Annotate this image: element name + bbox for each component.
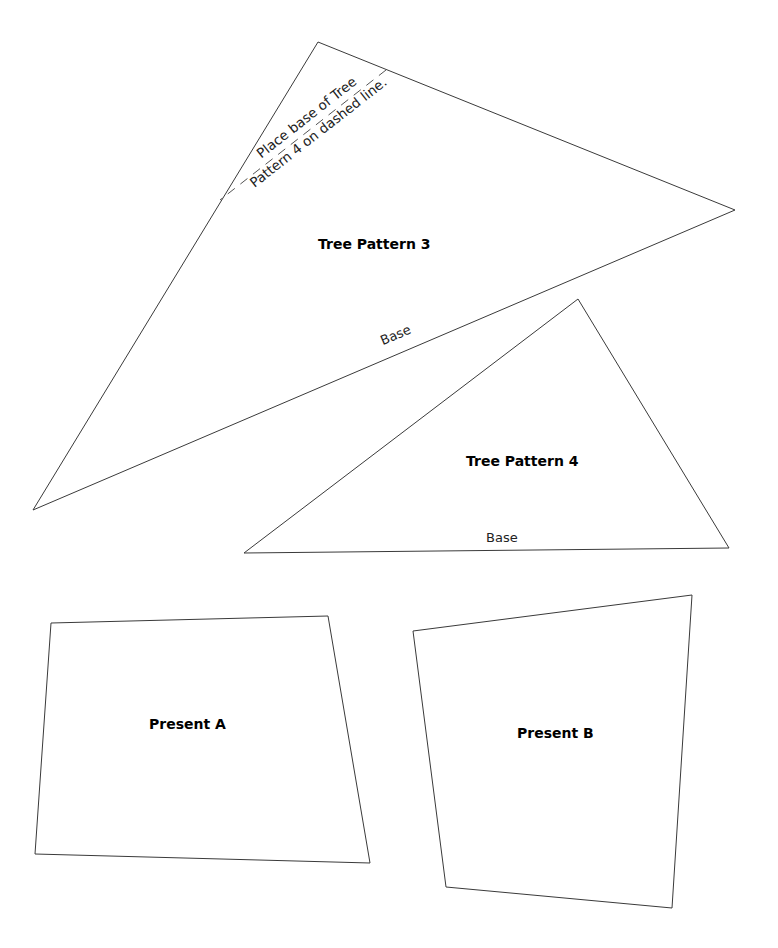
present-b-title: Present B (517, 725, 594, 741)
present-b-shape (413, 595, 692, 908)
present-a-title: Present A (149, 716, 226, 732)
pattern-canvas (0, 0, 778, 948)
present-a-shape (35, 616, 370, 863)
tree-pattern-3-title: Tree Pattern 3 (318, 236, 430, 252)
tree-pattern-4-base-label: Base (486, 530, 518, 545)
tree-pattern-4-title: Tree Pattern 4 (466, 453, 578, 469)
